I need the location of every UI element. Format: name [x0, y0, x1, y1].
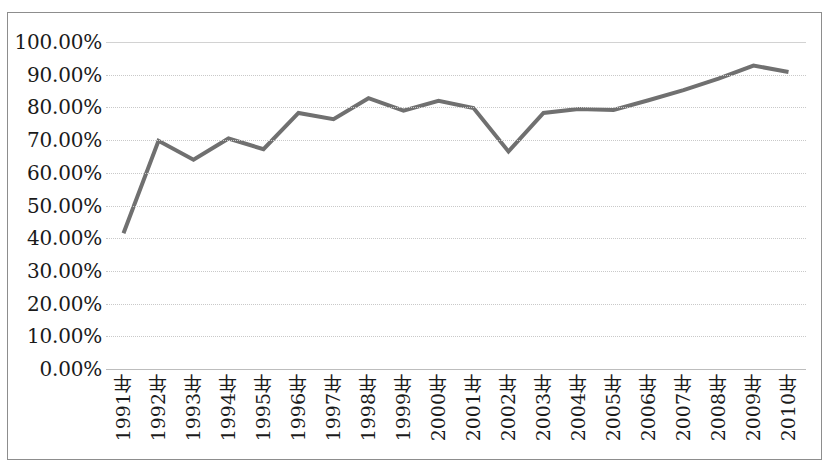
- gridline: [106, 238, 806, 239]
- x-axis-tick-label: 2006年: [639, 374, 658, 441]
- y-axis-tick-label: 60.00%: [10, 163, 102, 183]
- gridline: [106, 75, 806, 76]
- x-axis-tick-label: 1991年: [114, 374, 133, 441]
- x-axis-tick-label: 2008年: [709, 374, 728, 441]
- x-axis-tick-label: 2004年: [569, 374, 588, 441]
- y-axis-tick-label: 100.00%: [10, 32, 102, 52]
- x-axis-tick-label: 2002年: [499, 374, 518, 441]
- y-axis-tick-label: 40.00%: [10, 228, 102, 248]
- y-axis-tick-label: 30.00%: [10, 261, 102, 281]
- y-axis-tick-label: 80.00%: [10, 97, 102, 117]
- x-axis-tick-label: 1992年: [149, 374, 168, 441]
- x-axis-tick-label: 1994年: [219, 374, 238, 441]
- gridline: [106, 271, 806, 272]
- chart-container: 100.00%90.00%80.00%70.00%60.00%50.00%40.…: [0, 0, 830, 470]
- y-axis-tick-label: 90.00%: [10, 65, 102, 85]
- gridline: [106, 140, 806, 141]
- gridline: [106, 336, 806, 337]
- gridline: [106, 42, 806, 43]
- x-axis-line: [106, 369, 806, 370]
- x-axis-tick-label: 2005年: [604, 374, 623, 441]
- plot-area: [106, 42, 806, 369]
- x-axis-tick-label: 1997年: [324, 374, 343, 441]
- x-axis-tick-label: 2007年: [674, 374, 693, 441]
- y-axis-tick-label: 70.00%: [10, 130, 102, 150]
- y-axis-tick-label: 10.00%: [10, 326, 102, 346]
- x-axis-tick-label: 1996年: [289, 374, 308, 441]
- series-line-path: [124, 66, 789, 234]
- x-axis-tick-label: 2010年: [779, 374, 798, 441]
- y-axis-tick-label: 50.00%: [10, 196, 102, 216]
- x-axis-tick-label: 1999年: [394, 374, 413, 441]
- x-axis-tick-label: 1998年: [359, 374, 378, 441]
- gridline: [106, 206, 806, 207]
- x-axis: 1991年1992年1993年1994年1995年1996年1997年1998年…: [106, 374, 806, 464]
- y-axis: 100.00%90.00%80.00%70.00%60.00%50.00%40.…: [10, 42, 102, 369]
- gridline: [106, 304, 806, 305]
- x-axis-tick-label: 2009年: [744, 374, 763, 441]
- y-axis-tick-label: 0.00%: [10, 359, 102, 379]
- x-axis-tick-label: 2000年: [429, 374, 448, 441]
- gridline: [106, 107, 806, 108]
- x-axis-tick-label: 1995年: [254, 374, 273, 441]
- gridline: [106, 173, 806, 174]
- x-axis-tick-label: 2001年: [464, 374, 483, 441]
- y-axis-tick-label: 20.00%: [10, 294, 102, 314]
- x-axis-tick-label: 2003年: [534, 374, 553, 441]
- x-axis-tick-label: 1993年: [184, 374, 203, 441]
